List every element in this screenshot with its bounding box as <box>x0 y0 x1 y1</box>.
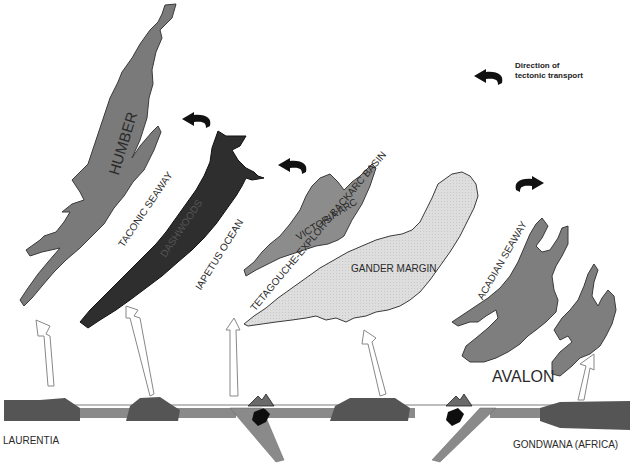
legend-line-2: tectonic transport <box>515 71 583 81</box>
label-gondwana-africa: GONDWANA (AFRICA) <box>513 439 618 450</box>
label-gander-margin: GANDER MARGIN <box>351 263 437 274</box>
uplift-arrow-2 <box>126 306 154 396</box>
uplift-arrow-3 <box>226 318 240 396</box>
label-laurentia: LAURENTIA <box>3 435 59 446</box>
transport-arrow-victoria <box>278 158 306 174</box>
transport-arrow-gander <box>516 176 544 192</box>
tectonic-diagram: HUMBER TACONIC SEAWAY DASHWOODS IAPETUS … <box>0 0 635 465</box>
uplift-arrow-1 <box>36 320 54 386</box>
label-avalon: AVALON <box>492 368 555 386</box>
legend-arrow <box>474 69 502 85</box>
transport-arrow-dashwoods <box>182 112 210 128</box>
legend-line-1: Direction of <box>515 61 583 71</box>
uplift-arrow-5 <box>578 354 594 400</box>
cross-section <box>4 394 630 462</box>
avalon-terrane-east <box>552 264 616 376</box>
legend: Direction of tectonic transport <box>515 61 583 81</box>
uplift-arrow-4 <box>362 330 386 396</box>
